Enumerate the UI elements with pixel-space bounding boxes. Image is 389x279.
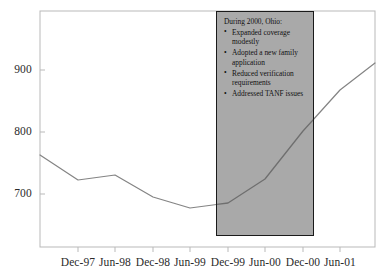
y-axis-label-900: 900 bbox=[0, 63, 32, 75]
annotation-bullet: Reduced verification requirements bbox=[223, 69, 307, 88]
annotation-bullet: Addressed TANF issues bbox=[223, 89, 307, 98]
chart-container: During 2000, Ohio: Expanded coverage mod… bbox=[0, 0, 389, 279]
x-axis-ticks bbox=[78, 247, 340, 252]
annotation-content: During 2000, Ohio: Expanded coverage mod… bbox=[217, 12, 313, 99]
data-series-line bbox=[40, 63, 375, 208]
y-axis-label-700: 700 bbox=[0, 187, 32, 199]
chart-canvas bbox=[0, 0, 389, 279]
y-axis-ticks bbox=[40, 70, 45, 194]
annotation-bullet: Adopted a new family application bbox=[223, 48, 307, 67]
highlight-region-2000: During 2000, Ohio: Expanded coverage mod… bbox=[216, 11, 314, 236]
annotation-bullet: Expanded coverage modestly bbox=[223, 28, 307, 47]
x-axis-label-jun-01: Jun-01 bbox=[315, 256, 365, 268]
y-axis-label-800: 800 bbox=[0, 125, 32, 137]
plot-frame bbox=[40, 11, 375, 247]
annotation-title: During 2000, Ohio: bbox=[224, 17, 307, 26]
annotation-bullet-list: Expanded coverage modestly Adopted a new… bbox=[223, 28, 307, 99]
